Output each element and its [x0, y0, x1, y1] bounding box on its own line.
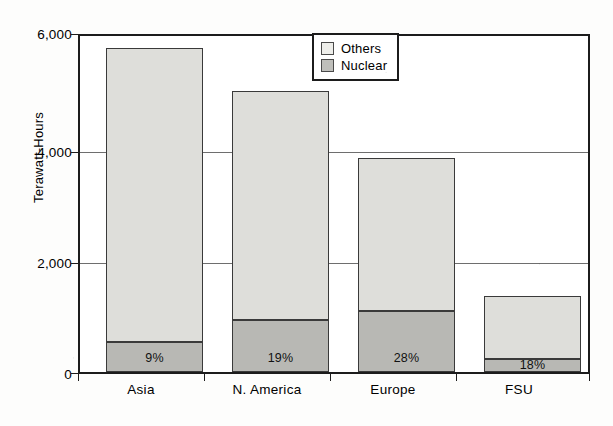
y-tick-label-4000: 4,000 — [16, 145, 72, 160]
x-tick-label-n-america: N. America — [204, 382, 330, 397]
legend-label-nuclear: Nuclear — [341, 58, 387, 73]
legend-item-others[interactable]: Others — [321, 40, 387, 57]
legend[interactable]: Others Nuclear — [312, 33, 399, 81]
bar-segment-europe-others[interactable] — [358, 158, 455, 311]
bar-segment-n-america-nuclear[interactable]: 19% — [232, 320, 329, 372]
y-axis-tick-4000 — [71, 152, 78, 153]
y-axis-tick-6000 — [71, 34, 78, 35]
plot-inner: 9% 19% 28% 18% — [80, 36, 588, 372]
bar-n-america[interactable]: 19% — [232, 40, 329, 372]
y-axis-tick-2000 — [71, 263, 78, 264]
bar-segment-fsu-others[interactable] — [484, 296, 581, 359]
bar-chart: Terawatt-Hours 6,000 4,000 2,000 0 9% — [0, 0, 613, 426]
bar-segment-asia-nuclear[interactable]: 9% — [106, 342, 203, 372]
bar-label-europe: 28% — [359, 351, 454, 365]
bar-label-fsu: 18% — [485, 358, 580, 372]
x-tick-label-europe: Europe — [330, 382, 456, 397]
y-axis-tick-labels: 6,000 4,000 2,000 0 — [6, 0, 72, 426]
plot-area: 9% 19% 28% 18% — [78, 34, 590, 374]
y-axis-tick-0 — [71, 373, 78, 374]
legend-swatch-nuclear-icon — [321, 59, 334, 72]
bar-label-n-america: 19% — [233, 351, 328, 365]
x-tick-label-asia: Asia — [78, 382, 204, 397]
bar-segment-europe-nuclear[interactable]: 28% — [358, 311, 455, 372]
bar-label-asia: 9% — [107, 351, 202, 365]
bar-asia[interactable]: 9% — [106, 40, 203, 372]
x-axis-tick-0 — [78, 374, 79, 381]
x-axis-tick-1 — [204, 374, 205, 381]
bar-segment-asia-others[interactable] — [106, 48, 203, 342]
x-axis-tick-3 — [456, 374, 457, 381]
x-axis-tick-2 — [330, 374, 331, 381]
bar-europe[interactable]: 28% — [358, 40, 455, 372]
bar-segment-fsu-nuclear[interactable]: 18% — [484, 359, 581, 372]
y-tick-label-0: 0 — [16, 367, 72, 382]
legend-swatch-others-icon — [321, 42, 334, 55]
bar-segment-n-america-others[interactable] — [232, 91, 329, 320]
x-tick-label-fsu: FSU — [456, 382, 582, 397]
y-tick-label-2000: 2,000 — [16, 256, 72, 271]
legend-item-nuclear[interactable]: Nuclear — [321, 57, 387, 74]
y-tick-label-6000: 6,000 — [16, 27, 72, 42]
legend-label-others: Others — [341, 41, 381, 56]
bar-fsu[interactable]: 18% — [484, 40, 581, 372]
x-axis-tick-4 — [589, 374, 590, 381]
